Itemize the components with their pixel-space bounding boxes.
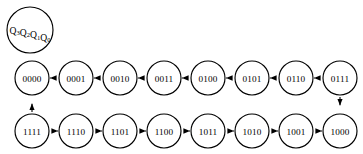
state-label: 1000 [331, 127, 350, 137]
state-node-1100[interactable]: 1100 [147, 114, 181, 148]
state-node-0001[interactable]: 0001 [59, 61, 93, 95]
state-node-1011[interactable]: 1011 [191, 114, 225, 148]
state-node-1101[interactable]: 1101 [103, 114, 137, 148]
state-label: 1010 [243, 127, 262, 137]
state-label: 1100 [155, 127, 174, 137]
state-node-1111[interactable]: 1111 [15, 114, 49, 148]
state-label: 1111 [23, 127, 41, 137]
state-node-0011[interactable]: 0011 [147, 61, 181, 95]
state-label: 0000 [23, 74, 42, 84]
state-label: 0001 [67, 74, 86, 84]
state-label: 0101 [243, 74, 262, 84]
state-register-legend: Q3Q2Q1Q0 [7, 7, 53, 53]
state-node-0010[interactable]: 0010 [103, 61, 137, 95]
state-label: 0100 [199, 74, 218, 84]
state-diagram: Q3Q2Q1Q0 1000100110101011110011011110111… [0, 0, 363, 154]
state-node-0110[interactable]: 0110 [279, 61, 313, 95]
state-node-0000[interactable]: 0000 [15, 61, 49, 95]
state-label: 1110 [67, 127, 86, 137]
state-diagram-canvas: Q3Q2Q1Q0 1000100110101011110011011110111… [0, 0, 363, 154]
state-label: 1001 [287, 127, 306, 137]
state-node-1001[interactable]: 1001 [279, 114, 313, 148]
state-node-1010[interactable]: 1010 [235, 114, 269, 148]
state-label: 0011 [155, 74, 174, 84]
state-label: 0110 [287, 74, 306, 84]
state-node-0101[interactable]: 0101 [235, 61, 269, 95]
state-label: 0010 [111, 74, 130, 84]
state-nodes: 1000100110101011110011011110111100000001… [15, 61, 357, 148]
state-node-0100[interactable]: 0100 [191, 61, 225, 95]
state-label: 1011 [199, 127, 218, 137]
state-node-1110[interactable]: 1110 [59, 114, 93, 148]
state-label: 1101 [111, 127, 130, 137]
state-label: 0111 [331, 74, 350, 84]
state-node-0111[interactable]: 0111 [323, 61, 357, 95]
state-node-1000[interactable]: 1000 [323, 114, 357, 148]
